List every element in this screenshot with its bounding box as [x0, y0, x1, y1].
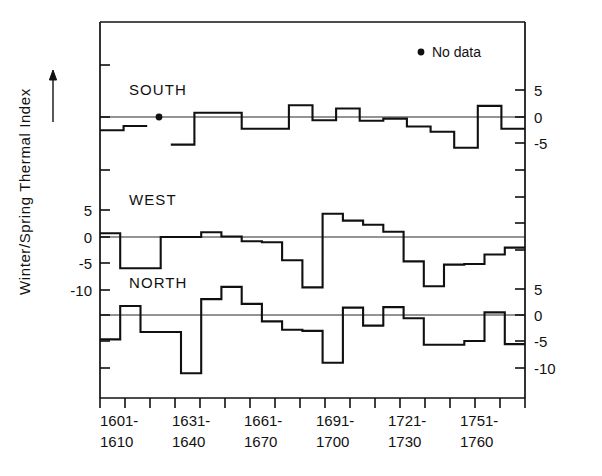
xtick-5-top: 1751- — [460, 412, 498, 429]
left-axis-tick-labels: 5 0 -5 -10 — [70, 202, 92, 299]
right-axis-tick-labels: 5 0 -5 5 0 -5 -10 — [534, 82, 556, 377]
y-axis-title: Winter/Spring Thermal Index — [16, 88, 33, 295]
series-layer — [100, 105, 525, 373]
xtick-4-bottom: 1730 — [388, 433, 421, 450]
legend-label-no-data: No data — [432, 44, 481, 60]
no-data-dot-icon — [156, 114, 163, 121]
panel-labels: SOUTH WEST NORTH — [129, 81, 188, 291]
left-tick-0: 0 — [84, 229, 92, 246]
xtick-5-bottom: 1760 — [460, 433, 493, 450]
panel-label-west: WEST — [129, 191, 177, 208]
right-axis-ticks — [515, 90, 525, 368]
panel-label-south: SOUTH — [129, 81, 187, 98]
right-bot-tick-m5: -5 — [534, 333, 547, 350]
y-axis-arrow-icon — [49, 70, 56, 122]
right-bot-tick-5: 5 — [534, 281, 542, 298]
right-top-tick-0: 0 — [534, 109, 542, 126]
left-tick-5: 5 — [84, 202, 92, 219]
xtick-3-bottom: 1700 — [316, 433, 349, 450]
series-line-south — [100, 105, 525, 147]
right-bot-tick-0: 0 — [534, 307, 542, 324]
plot-frame — [100, 22, 525, 398]
right-top-tick-m5: -5 — [534, 135, 547, 152]
left-axis-ticks — [100, 65, 110, 368]
xtick-4-top: 1721- — [388, 412, 426, 429]
legend: No data — [418, 44, 482, 60]
right-top-tick-5: 5 — [534, 82, 542, 99]
xtick-3-top: 1691- — [316, 412, 354, 429]
xtick-2-bottom: 1670 — [244, 433, 277, 450]
xtick-2-top: 1661- — [244, 412, 282, 429]
xtick-1-top: 1631- — [172, 412, 210, 429]
xtick-0-top: 1601- — [100, 412, 138, 429]
series-line-north — [100, 287, 525, 373]
x-axis-tick-labels: 1601- 1610 1631- 1640 1661- 1670 1691- 1… — [100, 412, 498, 450]
left-tick-m10: -10 — [70, 282, 92, 299]
xtick-1-bottom: 1640 — [172, 433, 205, 450]
y-axis-title-group: Winter/Spring Thermal Index — [16, 70, 57, 295]
xtick-0-bottom: 1610 — [100, 433, 133, 450]
thermal-index-figure: Winter/Spring Thermal Index — [0, 0, 602, 476]
left-tick-m5: -5 — [79, 255, 92, 272]
x-axis-ticks — [100, 398, 525, 408]
chart-canvas: Winter/Spring Thermal Index — [0, 0, 602, 476]
panel-label-north: NORTH — [129, 274, 188, 291]
right-bot-tick-m10: -10 — [534, 360, 556, 377]
no-data-dot-icon — [418, 49, 425, 56]
